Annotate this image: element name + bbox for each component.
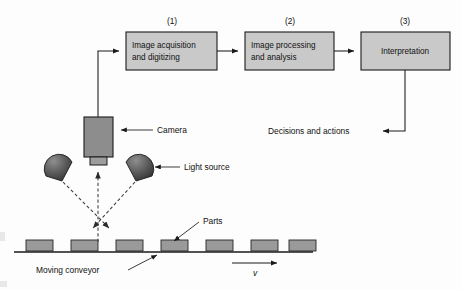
part-item — [251, 240, 278, 251]
connector-step3-to-output — [383, 70, 405, 131]
conveyor-label: Moving conveyor — [36, 265, 100, 275]
light-ray-right — [93, 182, 135, 228]
flow-step-1-line1: Image acquisition — [132, 41, 196, 50]
light-source-right-icon — [126, 154, 154, 181]
figure-canvas: (1) Image acquisition and digitizing (2)… — [0, 0, 461, 290]
part-item — [289, 240, 316, 251]
conveyor-leader-line — [128, 255, 157, 270]
flow-step-3-number: (3) — [400, 16, 410, 26]
part-item — [206, 240, 233, 251]
flow-step-2-line1: Image processing — [251, 41, 316, 50]
part-item — [71, 240, 98, 251]
page-edge-artifact — [0, 232, 7, 287]
velocity-label: v — [253, 268, 258, 278]
part-item — [116, 240, 143, 251]
connector-camera-to-step1 — [98, 51, 119, 117]
parts-label: Parts — [203, 216, 223, 226]
flow-step-3: (3) Interpretation — [361, 16, 450, 70]
part-item — [26, 240, 53, 251]
flow-step-2: (2) Image processing and analysis — [245, 16, 334, 70]
flow-step-1: (1) Image acquisition and digitizing — [126, 16, 217, 70]
flow-step-1-number: (1) — [167, 16, 177, 26]
flow-step-1-box — [126, 32, 217, 70]
light-source-label: Light source — [184, 162, 230, 172]
camera-label: Camera — [157, 125, 187, 135]
flow-step-2-box — [245, 32, 334, 70]
flow-step-1-line2: and digitizing — [132, 53, 180, 62]
parts-leader-line — [174, 222, 199, 241]
conveyor-parts — [26, 240, 316, 251]
camera-icon — [84, 117, 113, 165]
output-label: Decisions and actions — [268, 126, 349, 136]
light-source-left-icon — [44, 154, 72, 181]
light-ray-left — [63, 182, 109, 228]
flow-step-2-line2: and analysis — [251, 53, 297, 62]
flow-step-2-number: (2) — [285, 16, 295, 26]
flow-step-3-line1: Interpretation — [381, 47, 430, 56]
part-item — [161, 240, 188, 251]
